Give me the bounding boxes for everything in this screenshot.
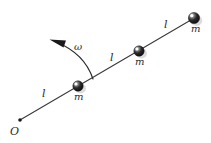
- physics-diagram-figure: l l l m m m ω O: [0, 0, 211, 143]
- mass-label-1: m: [74, 92, 83, 102]
- diagram-canvas: [0, 0, 211, 143]
- segment-length-label-2: l: [110, 52, 114, 63]
- origin-pivot-dot: [18, 118, 22, 122]
- segment-length-label-1: l: [42, 88, 46, 99]
- mass-label-2: m: [135, 57, 144, 67]
- omega-symbol-label: ω: [74, 42, 82, 52]
- omega-arrowhead-icon: [50, 40, 67, 48]
- angular-velocity-arrow: [50, 40, 94, 80]
- mass-label-3: m: [191, 24, 200, 34]
- origin-label: O: [10, 126, 19, 137]
- rod-line: [20, 17, 196, 120]
- segment-length-label-3: l: [164, 19, 168, 30]
